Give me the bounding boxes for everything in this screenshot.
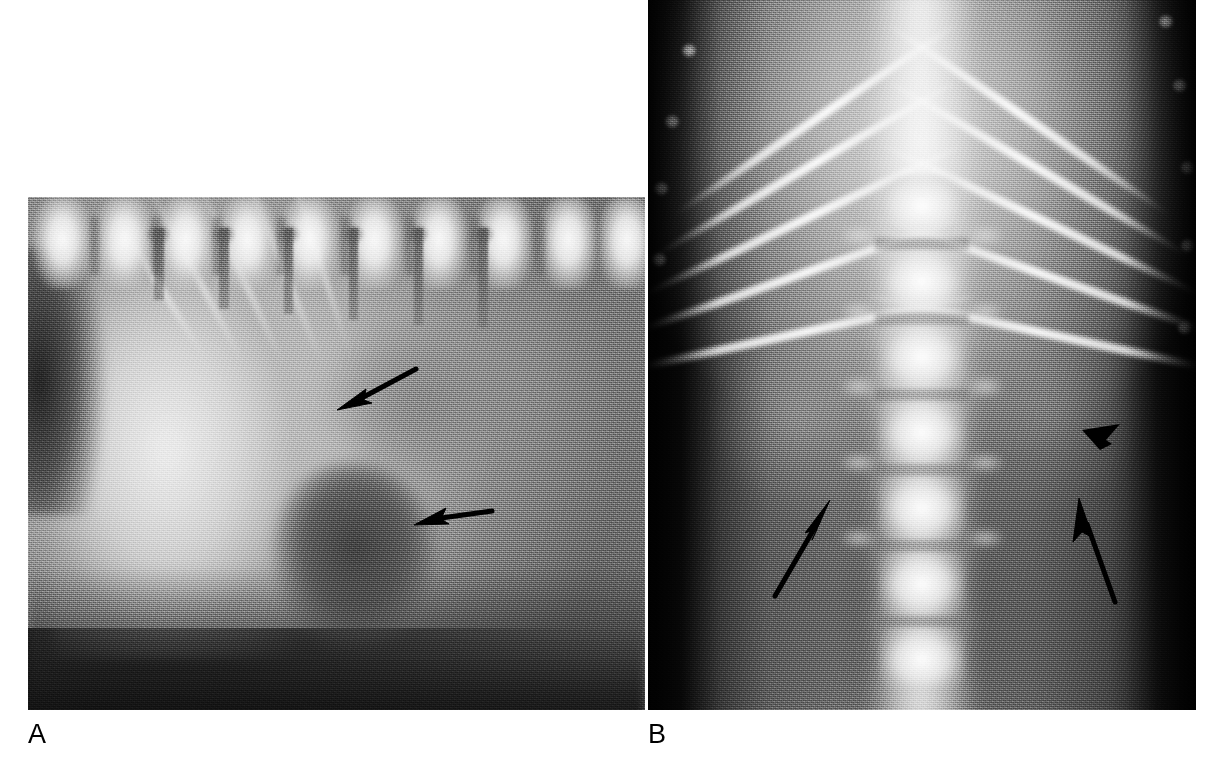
radiograph-b-right-collimation-edge — [1125, 0, 1196, 710]
transverse-process — [965, 451, 1006, 474]
spinous-process — [284, 228, 293, 314]
transverse-process — [838, 300, 879, 323]
lumbar-spine-a — [28, 197, 645, 325]
radiograph-b-left-collimation-edge — [648, 0, 719, 710]
transverse-process — [965, 300, 1006, 323]
vertebra — [540, 198, 597, 289]
vertebral-body — [879, 327, 965, 387]
transverse-process — [838, 224, 879, 247]
transverse-process — [838, 527, 879, 550]
transverse-process — [965, 375, 1006, 398]
spinous-process — [414, 228, 423, 325]
intervertebral-disc-space — [875, 464, 968, 476]
panel-label-a: A — [28, 721, 46, 748]
intervertebral-disc-space — [90, 217, 99, 275]
figure-root: A B — [0, 0, 1226, 774]
panel-label-b: B — [648, 721, 666, 748]
spinous-process — [154, 228, 163, 300]
intervertebral-disc-space — [875, 389, 968, 401]
radiograph-b-left-paraspinal-opacity — [714, 327, 878, 512]
vertebral-body — [879, 478, 965, 538]
vertebra — [34, 198, 91, 289]
vertebral-body — [879, 629, 965, 689]
radiograph-image-a — [28, 197, 645, 710]
transverse-process — [965, 527, 1006, 550]
spinous-process — [478, 228, 487, 328]
intervertebral-disc-space — [875, 238, 968, 250]
transverse-process — [965, 224, 1006, 247]
vertebral-body — [879, 402, 965, 462]
lumbar-spine-b — [875, 170, 968, 710]
transverse-process — [838, 451, 879, 474]
intervertebral-disc-space — [875, 313, 968, 325]
intervertebral-disc-space — [875, 540, 968, 552]
intervertebral-disc-space — [875, 616, 968, 628]
vertebral-body — [879, 176, 965, 236]
transverse-process — [838, 375, 879, 398]
panel-b-ventrodorsal-radiograph — [648, 0, 1196, 710]
vertebra — [96, 198, 153, 289]
radiograph-image-b — [648, 0, 1196, 710]
spinous-process — [219, 228, 228, 308]
vertebra — [599, 198, 645, 289]
intervertebral-disc-space — [536, 217, 545, 275]
spinous-process — [349, 228, 358, 319]
vertebral-body — [879, 554, 965, 614]
vertebral-body — [879, 251, 965, 311]
panel-a-lateral-radiograph — [28, 197, 645, 710]
radiograph-a-ventral-dark-band — [28, 566, 645, 710]
